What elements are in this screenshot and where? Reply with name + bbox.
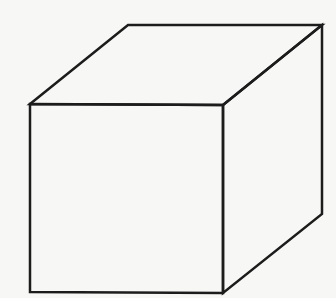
front-face: [30, 104, 223, 293]
cube-diagram: [0, 0, 336, 298]
cube-illustration: [0, 0, 336, 298]
top-face: [30, 25, 322, 105]
right-face: [223, 25, 322, 293]
